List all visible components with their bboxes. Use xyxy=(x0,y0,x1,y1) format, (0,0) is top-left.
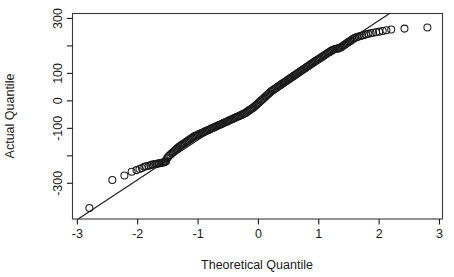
qq-plot-figure: 3001000-100-300 -3-2-10123 Theoretical Q… xyxy=(0,0,454,277)
x-axis-title: Theoretical Quantile xyxy=(201,258,313,272)
y-tick-label-0: 0 xyxy=(51,97,65,104)
y-tick-label-300: 300 xyxy=(51,8,65,29)
x-tick-label-3: 3 xyxy=(436,227,443,241)
qq-plot-svg: 3001000-100-300 -3-2-10123 Theoretical Q… xyxy=(0,0,454,277)
x-tick-label-0: 0 xyxy=(255,227,262,241)
x-tick-label--2: -2 xyxy=(132,227,143,241)
y-tick-label--100: -100 xyxy=(51,116,65,141)
figure-background xyxy=(0,0,454,277)
x-tick-label--1: -1 xyxy=(192,227,203,241)
x-tick-label-2: 2 xyxy=(376,227,383,241)
y-tick-label-100: 100 xyxy=(51,63,65,84)
y-axis-title: Actual Quantile xyxy=(3,74,17,159)
y-tick-label--300: -300 xyxy=(51,171,65,196)
x-tick-label-1: 1 xyxy=(315,227,322,241)
x-tick-label--3: -3 xyxy=(72,227,83,241)
